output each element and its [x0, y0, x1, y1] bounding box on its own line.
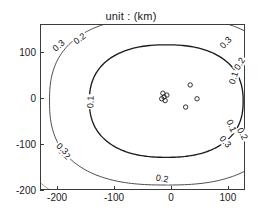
y-tick-mark	[40, 98, 44, 99]
contour-label: 0.1	[87, 94, 97, 109]
x-tick-label: 0	[168, 192, 174, 203]
y-tick-label: -100	[2, 138, 36, 149]
data-marker	[195, 97, 199, 101]
x-tick-mark	[171, 186, 172, 190]
y-tick-mark	[40, 52, 44, 53]
y-tick-label: 100	[2, 46, 36, 57]
y-tick-mark	[40, 190, 44, 191]
y-tick-label: 0	[2, 92, 36, 103]
x-tick-label: -200	[47, 192, 67, 203]
plot-axes-area	[40, 24, 245, 190]
data-marker	[188, 83, 192, 87]
plot-title: unit : (km)	[0, 10, 262, 22]
contour-line-0p3	[41, 25, 245, 190]
contour-line-0p2	[50, 25, 245, 185]
x-tick-mark	[114, 186, 115, 190]
x-tick-label: 100	[220, 192, 237, 203]
x-tick-label: -100	[104, 192, 124, 203]
contour-label: 0.2	[154, 173, 170, 184]
y-tick-label: -200	[2, 185, 36, 196]
data-marker	[183, 105, 187, 109]
x-tick-mark	[228, 186, 229, 190]
contour-canvas	[41, 25, 245, 190]
contour-plot-figure: unit : (km) 1000-100-200-200-1000100 0.1…	[0, 0, 262, 220]
y-tick-mark	[40, 144, 44, 145]
x-tick-mark	[57, 186, 58, 190]
